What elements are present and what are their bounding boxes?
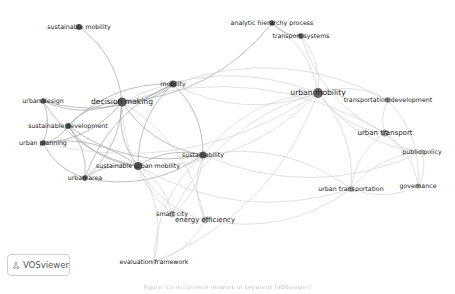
edge-layer	[43, 23, 424, 262]
node-label-sustainability[interactable]: sustainability	[182, 152, 224, 158]
node-label-evaluation-framework[interactable]: evaluation framework	[119, 259, 188, 265]
network-edge	[203, 152, 422, 178]
network-edge	[301, 36, 385, 133]
network-edge	[351, 133, 385, 189]
node-label-governance[interactable]: governance	[399, 183, 436, 189]
network-edge	[388, 100, 418, 186]
node-label-sustainable-development[interactable]: sustainable development	[28, 123, 108, 129]
network-edge	[203, 93, 318, 155]
network-canvas	[0, 0, 455, 294]
node-label-transport-systems[interactable]: transport systems	[272, 33, 329, 39]
node-label-transportation-development[interactable]: transportation development	[344, 97, 433, 103]
node-layer	[40, 20, 424, 264]
node-label-urban-transport[interactable]: urban transport	[357, 130, 412, 137]
figure-caption: Figure: Co-occurrence network of keyword…	[0, 284, 455, 290]
node-label-urban-planning[interactable]: urban planning	[19, 140, 67, 146]
vosviewer-logo-icon	[13, 260, 20, 271]
node-label-public-policy[interactable]: public policy	[402, 149, 442, 155]
node-label-sustainable-mobility[interactable]: sustainable mobility	[47, 24, 111, 30]
network-edge	[203, 151, 351, 189]
vosviewer-logo: VOSviewer	[7, 254, 70, 276]
node-label-urban-design[interactable]: urban design	[22, 98, 63, 104]
node-label-decision-making[interactable]: decision making	[91, 98, 153, 106]
network-edge	[43, 143, 85, 178]
node-label-urban-mobility[interactable]: urban mobility	[290, 89, 345, 97]
node-label-sustainable-urban-mobility[interactable]: sustainable urban mobility	[96, 163, 180, 169]
network-edge	[122, 23, 272, 102]
network-edge	[79, 27, 122, 102]
network-edge	[138, 93, 318, 166]
vosviewer-logo-text: VOSviewer	[23, 260, 69, 270]
node-label-mobility[interactable]: mobility	[160, 81, 185, 87]
node-label-urban-transportation[interactable]: urban transportation	[318, 186, 383, 192]
node-label-analytic-hierarchy-process[interactable]: analytic hierarchy process	[231, 20, 314, 26]
node-label-energy-efficiency[interactable]: energy efficiency	[175, 217, 235, 224]
node-label-urban-area[interactable]: urban area	[68, 175, 102, 181]
